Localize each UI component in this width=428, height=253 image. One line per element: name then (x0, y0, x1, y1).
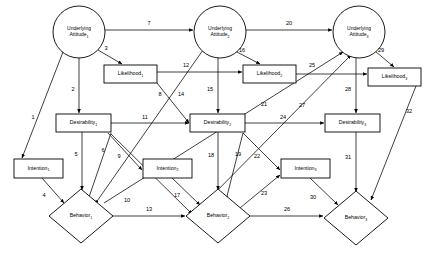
edge-label-25: 25 (309, 62, 315, 68)
edge-label-32: 32 (406, 108, 412, 114)
edge-label-29: 29 (378, 47, 384, 53)
edge-label-6: 6 (101, 147, 104, 153)
edge-label-14: 14 (178, 91, 184, 97)
edge-label-22: 22 (254, 153, 260, 159)
edge-label-27: 27 (299, 102, 305, 108)
edge-label-4: 4 (42, 192, 45, 198)
node-ds2: Desirability2 (190, 114, 245, 132)
path-diagram: UnderlyingAttitude1UnderlyingAttitude2Un… (0, 0, 428, 253)
node-lk2: Likelihood2 (243, 65, 296, 83)
edge-label-31: 31 (345, 154, 351, 160)
edge-label-19: 19 (235, 151, 241, 157)
node-ds1: Desirability1 (56, 114, 111, 132)
edge-path-6 (88, 133, 111, 200)
edge-label-17: 17 (174, 192, 180, 198)
node-in2: Intention2 (143, 159, 192, 178)
edge-label-21: 21 (261, 101, 267, 107)
edge-path-9 (108, 133, 142, 170)
edge-path-30 (310, 178, 338, 205)
node-bh3: Behavior3 (324, 191, 388, 245)
node-lk3: Likelihood3 (368, 68, 421, 86)
node-lk1: Likelihood1 (104, 65, 157, 83)
edge-path-32 (371, 86, 416, 200)
edge-label-11: 11 (142, 114, 148, 120)
node-in3: Intention3 (281, 159, 330, 178)
edge-path-8 (157, 83, 189, 123)
diagram-canvas: UnderlyingAttitude1UnderlyingAttitude2Un… (0, 0, 428, 253)
node-ds3: Desirability3 (325, 114, 380, 132)
node-ua1: UnderlyingAttitude1 (53, 6, 105, 58)
edge-label-24: 24 (280, 114, 286, 120)
edge-label-12: 12 (183, 62, 189, 68)
edge-path-1 (22, 52, 63, 158)
edge-label-16: 16 (239, 47, 245, 53)
node-bh2: Behavior2 (186, 189, 250, 243)
edge-label-2: 2 (71, 86, 74, 92)
edge-label-8: 8 (158, 91, 161, 97)
edge-label-18: 18 (208, 152, 214, 158)
edge-label-26: 26 (284, 206, 290, 212)
edge-path-4 (42, 178, 64, 203)
edge-label-7: 7 (147, 20, 150, 26)
edge-path-22 (243, 133, 280, 170)
edge-label-28: 28 (345, 86, 351, 92)
edge-label-5: 5 (74, 151, 77, 157)
edge-label-3: 3 (104, 45, 107, 51)
edge-path-3 (98, 50, 122, 64)
edge-label-10: 10 (124, 197, 130, 203)
nodes-layer: UnderlyingAttitude1UnderlyingAttitude2Un… (14, 6, 421, 245)
node-in1: Intention1 (14, 159, 63, 178)
edge-label-23: 23 (261, 190, 267, 196)
edge-label-9: 9 (117, 153, 120, 159)
edge-label-15: 15 (207, 86, 213, 92)
edge-label-30: 30 (310, 194, 316, 200)
edge-label-1: 1 (31, 114, 34, 120)
edge-label-20: 20 (286, 20, 292, 26)
edge-label-13: 13 (146, 206, 152, 212)
